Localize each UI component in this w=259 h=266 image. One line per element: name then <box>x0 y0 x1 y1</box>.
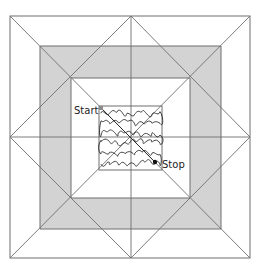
quilt-diagram: Start Stop <box>0 0 259 266</box>
start-label: Start <box>74 105 99 116</box>
stop-dot <box>153 160 157 164</box>
stop-label: Stop <box>162 159 185 170</box>
start-marker <box>99 106 103 110</box>
